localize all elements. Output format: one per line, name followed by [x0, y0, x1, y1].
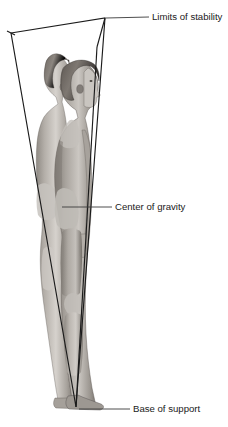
- front-figure-knee: [64, 293, 82, 315]
- front-figure-ear: [77, 85, 84, 94]
- front-figure-thigh: [61, 228, 83, 297]
- rear-figure-calf-highlight: [42, 246, 55, 290]
- limits-of-stability-label: Limits of stability: [152, 11, 223, 22]
- stability-diagram: Limits of stability Center of gravity Ba…: [0, 0, 228, 427]
- center-of-gravity-label: Center of gravity: [115, 201, 186, 212]
- limits-of-stability-leader: [106, 17, 149, 18]
- annotation-limits-of-stability: Limits of stability: [106, 11, 223, 22]
- diagram-canvas: Limits of stability Center of gravity Ba…: [0, 0, 228, 427]
- front-figure-eye: [90, 80, 93, 82]
- base-of-support-label: Base of support: [133, 403, 201, 414]
